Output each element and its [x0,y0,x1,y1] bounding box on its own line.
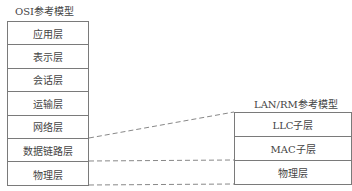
dash-datalink-bottom-to-mac [89,160,234,161]
dash-datalink-top-to-llc [89,112,234,138]
dash-physical-bottom [89,184,234,185]
